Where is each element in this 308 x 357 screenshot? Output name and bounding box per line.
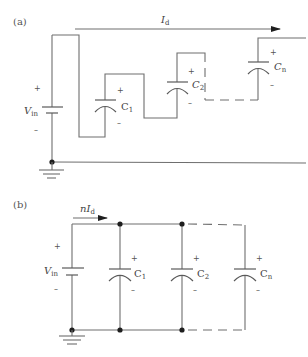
- capacitor-c2: + – C2: [167, 67, 204, 108]
- vin-label: Vin: [44, 265, 58, 278]
- vin-label: Vin: [24, 105, 38, 118]
- panel-a-series-circuit: (a) Id + – Vin + – C1 +: [13, 14, 306, 178]
- junction-node: [117, 327, 122, 332]
- series-wire-1: [52, 35, 105, 137]
- cn-minus-sign: –: [270, 81, 274, 90]
- cn-plus-sign: +: [256, 254, 263, 263]
- c1-plus-sign: +: [131, 254, 138, 263]
- current-label-nid: nId: [80, 203, 95, 216]
- c1-minus-sign: –: [131, 286, 135, 295]
- junction-node: [117, 221, 122, 226]
- c1-label: C1: [134, 268, 146, 281]
- junction-node: [179, 327, 184, 332]
- c2-plus-sign: +: [193, 254, 200, 263]
- c2-label: C2: [192, 79, 204, 92]
- vin-plus-sign: +: [34, 84, 41, 93]
- cn-minus-sign: –: [256, 286, 260, 295]
- ground-icon: [39, 162, 64, 178]
- series-wire-5: [258, 38, 306, 62]
- vin-minus-sign: –: [34, 126, 38, 135]
- cn-plus-sign: +: [270, 48, 277, 57]
- c2-plus-sign: +: [188, 67, 195, 76]
- vin-plus-sign: +: [54, 242, 61, 251]
- capacitor-c2: + – C2: [171, 224, 209, 330]
- capacitor-c1: + – C1: [95, 86, 133, 128]
- c1-minus-sign: –: [117, 119, 121, 128]
- vin-minus-sign: –: [54, 285, 58, 294]
- c2-label: C2: [197, 268, 209, 281]
- c2-minus-sign: –: [193, 286, 197, 295]
- ground-icon: [59, 330, 85, 344]
- cn-label: Cn: [260, 268, 273, 281]
- panel-a-label: (a): [13, 16, 27, 27]
- cn-label: Cn: [274, 61, 287, 74]
- junction-node: [179, 221, 184, 226]
- c2-minus-sign: –: [188, 99, 192, 108]
- top-rail-dashed: [188, 224, 245, 225]
- panel-b-label: (b): [13, 199, 27, 210]
- current-label-id: Id: [160, 14, 170, 27]
- c1-label: C1: [121, 101, 133, 114]
- capacitor-c1: + – C1: [109, 224, 146, 330]
- circuit-figure: (a) Id + – Vin + – C1 +: [0, 0, 308, 357]
- c1-plus-sign: +: [117, 86, 124, 95]
- capacitor-cn: + – Cn: [248, 48, 287, 90]
- return-wire: [52, 162, 306, 163]
- panel-b-parallel-circuit: (b) nId + – Vin + – C1: [13, 199, 273, 344]
- capacitor-cn: + – Cn: [234, 225, 273, 330]
